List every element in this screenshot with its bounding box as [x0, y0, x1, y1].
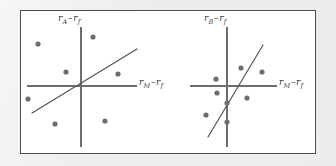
panel-a-x-subscript2: f	[161, 82, 164, 90]
data-point	[224, 100, 229, 105]
panel-a-data-points	[25, 34, 120, 126]
data-point	[115, 71, 120, 76]
data-point	[224, 119, 229, 124]
data-point	[52, 121, 57, 126]
data-point	[244, 95, 249, 100]
data-point	[102, 118, 107, 123]
panel-b-data-points	[203, 65, 264, 124]
data-point	[259, 69, 264, 74]
panel-b-y-axis-label: rB–rf	[204, 13, 226, 26]
panel-b-x-subscript2: f	[301, 82, 304, 90]
panel-a-y-axis-label: rA–rf	[58, 13, 80, 26]
data-point	[213, 76, 218, 81]
panel-b-x-axis-label: rM–rf	[279, 77, 303, 90]
data-point	[214, 90, 219, 95]
data-point	[203, 112, 208, 117]
data-point	[35, 41, 40, 46]
panel-b-y-subscript: B	[209, 18, 214, 26]
data-point	[25, 96, 30, 101]
data-point	[238, 65, 243, 70]
panel-b-plot-group	[190, 27, 277, 147]
data-point	[63, 69, 68, 74]
figure-container: rA–rf rM–rf rB–rf rM–rf	[0, 0, 336, 166]
panel-a-plot-group	[25, 27, 137, 147]
panel-b-y-subscript2: f	[224, 18, 227, 26]
panel-a-y-subscript2: f	[78, 18, 81, 26]
panel-a-regression-line	[32, 49, 137, 113]
panel-a-x-axis-label: rM–rf	[139, 77, 163, 90]
data-point	[90, 34, 95, 39]
